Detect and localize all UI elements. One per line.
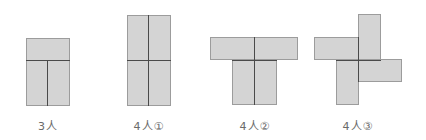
divider-vertical <box>254 37 255 105</box>
table-block <box>26 38 70 106</box>
divider-vertical <box>148 15 149 106</box>
table-block-left <box>314 37 359 60</box>
figure-label: 4人② <box>225 117 285 133</box>
table-block-top <box>358 14 381 60</box>
divider-horizontal <box>127 60 171 61</box>
divider-vertical <box>47 60 48 106</box>
figure-label: 3人 <box>18 117 78 133</box>
figure-label: 4人① <box>119 117 179 133</box>
table-block-bottom <box>336 59 359 105</box>
divider-vertical <box>358 37 359 82</box>
figure-label: 4人③ <box>328 117 388 133</box>
table-block-right <box>358 59 402 82</box>
divider-horizontal <box>26 60 70 61</box>
